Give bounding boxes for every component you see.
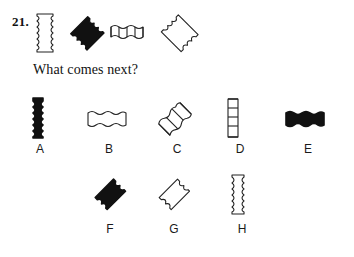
sequence-shape-diagonal-outline-wavy-bar-down xyxy=(155,10,203,58)
question-prompt: What comes next? xyxy=(33,62,138,78)
option-shape-A[interactable] xyxy=(29,96,47,140)
option-shape-H[interactable] xyxy=(228,172,248,216)
option-shape-F[interactable] xyxy=(88,172,132,216)
option-shape-E[interactable] xyxy=(283,108,327,130)
sequence-shape-vertical-outline-wavy-bar xyxy=(34,12,56,54)
option-label-B[interactable]: B xyxy=(99,142,119,156)
option-shape-G[interactable] xyxy=(152,172,196,216)
option-label-H[interactable]: H xyxy=(232,222,252,236)
option-label-E[interactable]: E xyxy=(298,142,318,156)
option-label-D[interactable]: D xyxy=(230,142,250,156)
option-label-A[interactable]: A xyxy=(30,142,50,156)
question-number: 21. xyxy=(12,14,29,30)
sequence-shape-diagonal-filled-wavy-bar-up xyxy=(66,12,108,54)
option-shape-D[interactable] xyxy=(224,96,242,140)
option-label-C[interactable]: C xyxy=(167,142,187,156)
option-shape-C[interactable] xyxy=(152,96,198,142)
puzzle-page: 21. What comes xyxy=(0,0,354,257)
option-label-F[interactable]: F xyxy=(100,222,120,236)
option-label-G[interactable]: G xyxy=(164,222,184,236)
option-shape-B[interactable] xyxy=(85,108,129,130)
sequence-shape-horizontal-outline-segmented-bar xyxy=(108,22,148,42)
